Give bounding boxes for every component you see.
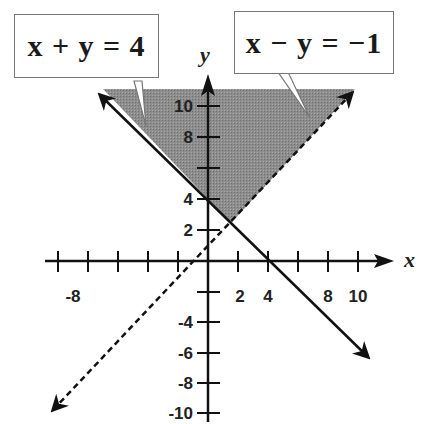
equation-label-solid: x + y = 4 [27, 29, 145, 63]
callout-left: x + y = 4 [14, 14, 159, 78]
y-tick-label: -4 [178, 313, 194, 332]
x-tick-label: -8 [65, 287, 80, 306]
x-tick-label: 4 [263, 287, 273, 306]
y-axis-label: y [197, 42, 210, 67]
shaded-solution-region [103, 89, 355, 223]
x-tick-label: 8 [323, 287, 332, 306]
x-axis [45, 251, 394, 272]
callout-right: x − y = −1 [234, 11, 394, 74]
y-tick-label: 10 [174, 97, 193, 116]
y-tick-label: 4 [184, 190, 194, 209]
y-tick-label: -6 [178, 344, 193, 363]
x-axis-label: x [403, 247, 415, 272]
y-tick-label: 8 [184, 128, 193, 147]
x-tick-label: 10 [349, 287, 368, 306]
equation-label-dashed: x − y = −1 [246, 26, 382, 60]
y-tick-label: 2 [184, 221, 193, 240]
y-tick-label: -8 [178, 374, 193, 393]
y-tick-label: -10 [168, 404, 193, 423]
x-tick-label: 2 [235, 287, 244, 306]
